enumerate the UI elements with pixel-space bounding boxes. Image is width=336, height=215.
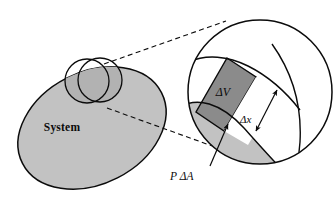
magnified-view-group: [176, 20, 332, 180]
delta-x-label: Δx: [239, 113, 251, 125]
system-label: System: [44, 121, 81, 134]
figure-container: System: [0, 0, 336, 215]
boundary-work-figure: System: [0, 0, 336, 215]
system-blob: [0, 43, 187, 214]
p-delta-a-label: P ΔA: [169, 170, 194, 182]
delta-v-label: ΔV: [215, 85, 232, 99]
system-group: System: [0, 43, 187, 214]
